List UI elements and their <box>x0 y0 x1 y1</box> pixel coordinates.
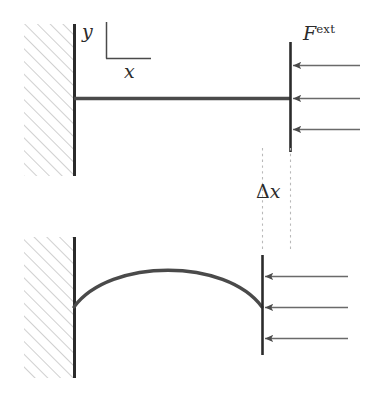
coordinate-axis-marker <box>106 22 151 59</box>
external-force-arrows-bottom <box>265 277 348 339</box>
external-force-arrows-top <box>293 66 360 130</box>
wall-hatching-top <box>24 24 74 176</box>
axis-y-label: y <box>82 22 93 41</box>
force-symbol: F <box>303 22 316 44</box>
wall-hatching-bottom <box>24 237 74 378</box>
deformed-panel <box>24 237 348 378</box>
beam-buckling-figure: Fext y x Δx <box>0 0 368 395</box>
beam-buckled-curve <box>74 270 262 307</box>
axis-x-label: x <box>124 62 135 81</box>
delta-variable: x <box>270 180 281 202</box>
delta-x-label: Δx <box>256 182 280 201</box>
undeformed-panel <box>24 22 360 176</box>
delta-symbol: Δ <box>256 180 270 202</box>
external-force-label: Fext <box>303 24 335 43</box>
force-superscript: ext <box>316 22 335 36</box>
figure-canvas <box>0 0 368 395</box>
